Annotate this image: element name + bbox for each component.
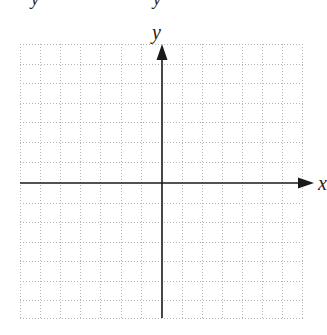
coordinate-plane — [0, 0, 327, 335]
x-axis-label: x — [318, 173, 327, 193]
x-axis-arrow-icon — [298, 178, 314, 189]
y-axis — [157, 44, 168, 318]
y-axis-label: y — [152, 22, 161, 42]
x-axis — [20, 178, 314, 189]
y-axis-arrow-icon — [157, 44, 168, 60]
